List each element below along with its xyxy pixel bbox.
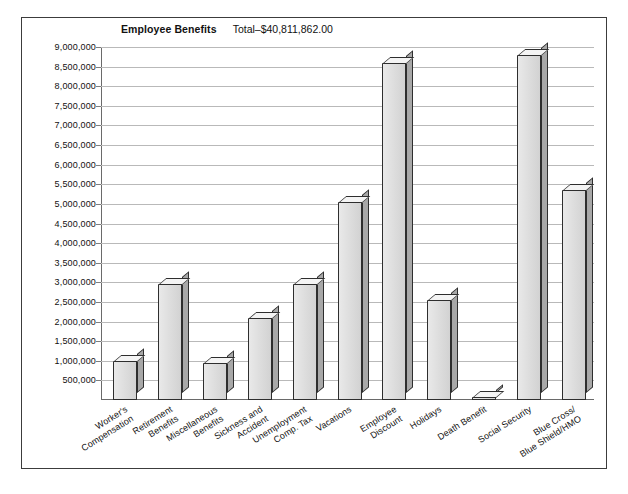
y-tick-label: 3,000,000 [55, 277, 96, 287]
bar-side-face [362, 189, 369, 393]
y-tick-label: 5,500,000 [55, 179, 96, 189]
bar-front-face [158, 284, 182, 400]
bar-front-face [382, 63, 406, 400]
bar-side-face [182, 271, 189, 393]
bar-side-face [317, 271, 324, 393]
y-tick-label: 9,000,000 [55, 42, 96, 52]
bar-front-face [248, 318, 272, 400]
x-category-label: Vacations [315, 404, 354, 434]
y-tick-label: 6,000,000 [55, 160, 96, 170]
y-tick-label: 4,000,000 [55, 238, 96, 248]
bar-front-face [517, 55, 541, 400]
bar [203, 356, 227, 400]
bar [248, 311, 272, 400]
x-category-label: Worker'sCompensation [74, 404, 135, 453]
y-tick-label: 7,500,000 [55, 101, 96, 111]
y-tick-label: 8,000,000 [55, 81, 96, 91]
y-tick-label: 500,000 [62, 375, 96, 385]
bar-side-face [541, 42, 548, 393]
x-category-label-line: Holidays [408, 404, 444, 432]
bar [113, 354, 137, 400]
y-tick-label: 4,500,000 [55, 219, 96, 229]
y-tick-label: 2,500,000 [55, 297, 96, 307]
bar [158, 277, 182, 400]
plot-area [101, 47, 594, 400]
bar-front-face [562, 190, 586, 400]
chart-title-row: Employee Benefits Total–$40,811,862.00 [22, 18, 606, 40]
bar [472, 390, 496, 400]
x-category-label: Holidays [408, 404, 444, 432]
y-tick-label: 6,500,000 [55, 140, 96, 150]
x-axis-category-labels: Worker'sCompensationRetirementBenefitsMi… [101, 400, 594, 470]
x-category-label-line: Vacations [315, 404, 354, 434]
bar-front-face [203, 363, 227, 400]
chart-title: Employee Benefits [121, 23, 217, 35]
y-tick-label: 3,500,000 [55, 258, 96, 268]
bar [338, 195, 362, 400]
chart-total-label: Total–$40,811,862.00 [233, 23, 333, 35]
y-tick-label: 1,000,000 [55, 356, 96, 366]
y-tick-label: 2,000,000 [55, 317, 96, 327]
x-category-label: EmployeeDiscount [358, 404, 404, 443]
bar-side-face [406, 50, 413, 393]
bar-side-face [451, 287, 458, 393]
bar [427, 293, 451, 400]
bar-front-face [113, 361, 137, 400]
chart-panel: Employee Benefits Total–$40,811,862.00 9… [21, 17, 607, 469]
y-tick-label: 7,000,000 [55, 120, 96, 130]
bar [562, 183, 586, 400]
y-tick-label: 1,500,000 [55, 336, 96, 346]
bar-top-face [472, 391, 504, 398]
y-axis-tick-labels: 9,000,0008,500,0008,000,0007,500,0007,00… [22, 47, 96, 400]
y-tick-label: 8,500,000 [55, 62, 96, 72]
bar [517, 48, 541, 400]
y-tick-label: 5,000,000 [55, 199, 96, 209]
bar-front-face [338, 202, 362, 400]
bar [293, 277, 317, 400]
bar-side-face [586, 177, 593, 393]
bar [382, 56, 406, 400]
bar-front-face [427, 300, 451, 400]
bar-front-face [293, 284, 317, 400]
